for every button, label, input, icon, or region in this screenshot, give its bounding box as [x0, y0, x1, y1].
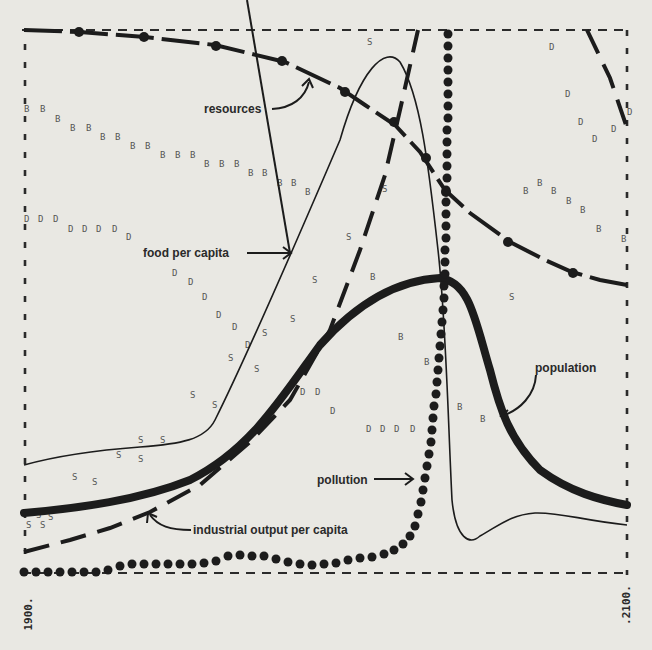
svg-text:B: B: [621, 234, 626, 244]
svg-text:B: B: [551, 186, 556, 196]
svg-text:B: B: [523, 186, 528, 196]
x-axis-start-label: 1900.: [22, 597, 35, 630]
svg-text:S: S: [138, 435, 143, 445]
letter-markers: BB BBB BB BB BBB BBB BB BB B BB BB BB B …: [24, 37, 632, 530]
svg-text:B: B: [370, 272, 375, 282]
svg-text:D: D: [315, 387, 320, 397]
svg-text:S: S: [92, 477, 97, 487]
svg-text:S: S: [116, 450, 121, 460]
svg-text:D: D: [366, 424, 371, 434]
svg-text:S: S: [262, 328, 267, 338]
svg-text:D: D: [578, 117, 583, 127]
svg-text:S: S: [212, 400, 217, 410]
svg-text:S: S: [40, 520, 45, 530]
annotation-population: population: [501, 361, 596, 420]
svg-text:B: B: [234, 159, 239, 169]
svg-text:S: S: [346, 232, 351, 242]
svg-text:D: D: [410, 424, 415, 434]
annotation-resources: resources: [204, 79, 313, 116]
resources-curve: [24, 30, 627, 285]
svg-text:B: B: [160, 150, 165, 160]
svg-text:D: D: [188, 277, 193, 287]
svg-text:resources: resources: [204, 102, 262, 116]
resources-dots: [74, 27, 578, 278]
svg-text:B: B: [175, 150, 180, 160]
svg-text:D: D: [24, 214, 29, 224]
svg-text:B: B: [305, 187, 310, 197]
svg-text:D: D: [394, 424, 399, 434]
annotation-industrial-output: industrial output per capita: [147, 513, 348, 537]
svg-text:B: B: [219, 159, 224, 169]
svg-text:S: S: [254, 364, 259, 374]
svg-text:B: B: [115, 132, 120, 142]
svg-text:D: D: [96, 224, 101, 234]
svg-text:B: B: [70, 123, 75, 133]
svg-text:D: D: [112, 224, 117, 234]
svg-text:B: B: [248, 168, 253, 178]
svg-text:B: B: [291, 178, 296, 188]
svg-text:B: B: [580, 205, 585, 215]
x-axis-end-label: .2100.: [620, 585, 633, 625]
svg-text:pollution: pollution: [317, 473, 368, 487]
svg-text:B: B: [100, 132, 105, 142]
svg-text:B: B: [398, 332, 403, 342]
svg-text:B: B: [190, 150, 195, 160]
svg-text:D: D: [53, 214, 58, 224]
svg-text:B: B: [55, 114, 60, 124]
svg-text:B: B: [24, 104, 29, 114]
svg-text:D: D: [82, 224, 87, 234]
industrial-output-curve-return: [587, 30, 627, 128]
svg-text:D: D: [592, 134, 597, 144]
svg-text:S: S: [190, 390, 195, 400]
svg-text:D: D: [565, 89, 570, 99]
svg-text:D: D: [380, 424, 385, 434]
svg-text:S: S: [509, 292, 514, 302]
svg-text:B: B: [596, 224, 601, 234]
svg-text:D: D: [300, 387, 305, 397]
svg-text:B: B: [457, 402, 462, 412]
svg-text:D: D: [126, 232, 131, 242]
svg-text:B: B: [204, 159, 209, 169]
world-model-chart: BB BBB BB BB BBB BBB BB BB B BB BB BB B …: [0, 0, 652, 650]
svg-text:D: D: [549, 42, 554, 52]
svg-text:B: B: [130, 141, 135, 151]
svg-text:industrial output per capita: industrial output per capita: [193, 523, 348, 537]
svg-text:D: D: [232, 322, 237, 332]
annotation-pollution: pollution: [317, 473, 413, 487]
svg-text:S: S: [72, 472, 77, 482]
svg-text:B: B: [480, 414, 485, 424]
svg-text:B: B: [566, 196, 571, 206]
svg-text:B: B: [145, 141, 150, 151]
svg-text:D: D: [627, 107, 632, 117]
svg-text:S: S: [228, 353, 233, 363]
svg-text:food per capita: food per capita: [143, 246, 229, 260]
svg-text:D: D: [68, 224, 73, 234]
svg-text:B: B: [40, 104, 45, 114]
svg-text:S: S: [138, 454, 143, 464]
svg-text:B: B: [424, 357, 429, 367]
svg-text:D: D: [38, 214, 43, 224]
svg-text:population: population: [535, 361, 596, 375]
svg-text:D: D: [216, 310, 221, 320]
svg-text:D: D: [202, 292, 207, 302]
svg-text:S: S: [26, 520, 31, 530]
svg-text:S: S: [290, 314, 295, 324]
svg-text:D: D: [611, 124, 616, 134]
svg-text:D: D: [172, 268, 177, 278]
svg-text:B: B: [537, 178, 542, 188]
svg-text:S: S: [160, 435, 165, 445]
svg-text:B: B: [86, 123, 91, 133]
svg-text:S: S: [312, 275, 317, 285]
plot-frame: [22, 30, 628, 575]
svg-text:S: S: [367, 37, 372, 47]
svg-text:D: D: [330, 406, 335, 416]
svg-text:B: B: [262, 168, 267, 178]
